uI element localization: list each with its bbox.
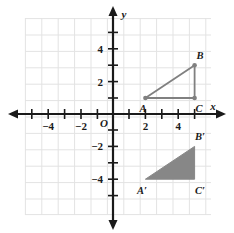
x-axis-label: x bbox=[209, 100, 216, 112]
vertex-label-c-prime: C′ bbox=[195, 185, 205, 196]
vertex-marker-b bbox=[192, 63, 197, 68]
origin-label: O bbox=[100, 117, 108, 129]
y-axis-arrow-bottom bbox=[109, 220, 118, 230]
vertex-label-b-prime: B′ bbox=[194, 131, 205, 142]
coordinate-plane-figure: x y O −4 −2 2 4 4 2 −2 −4 A B C A′ B′ C′ bbox=[0, 0, 234, 233]
x-tick-label-neg2: −2 bbox=[75, 120, 87, 132]
y-tick-label-neg2: −2 bbox=[91, 140, 103, 152]
y-tick-label-2: 2 bbox=[98, 76, 104, 88]
vertex-label-b: B bbox=[195, 50, 203, 61]
y-tick-label-4: 4 bbox=[98, 43, 104, 55]
coordinate-plane-canvas: x y O −4 −2 2 4 4 2 −2 −4 A B C A′ B′ C′ bbox=[0, 0, 234, 233]
x-tick-label-4: 4 bbox=[175, 120, 181, 132]
vertex-label-c: C bbox=[195, 103, 203, 114]
vertex-label-a: A bbox=[138, 103, 146, 114]
vertex-marker-a bbox=[143, 96, 148, 101]
y-tick-label-neg4: −4 bbox=[91, 173, 103, 185]
x-tick-label-2: 2 bbox=[143, 120, 149, 132]
x-axis-arrow-left bbox=[8, 110, 18, 119]
y-axis-arrow-top bbox=[109, 6, 118, 16]
y-axis-label: y bbox=[120, 8, 127, 20]
vertex-label-a-prime: A′ bbox=[136, 185, 147, 196]
x-tick-label-neg4: −4 bbox=[42, 120, 54, 132]
vertex-marker-c bbox=[192, 96, 197, 101]
x-axis-arrow-right bbox=[216, 110, 226, 119]
